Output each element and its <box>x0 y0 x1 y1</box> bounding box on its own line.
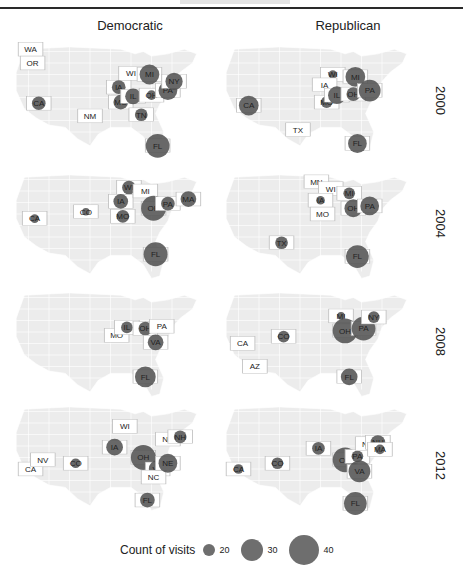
svg-text:NC: NC <box>148 473 160 482</box>
svg-text:PA: PA <box>157 322 168 331</box>
svg-text:FL: FL <box>351 499 361 508</box>
state-marker-ia: IA <box>102 439 127 456</box>
column-header-democratic: Democratic <box>40 18 220 33</box>
state-marker-ne: NE <box>156 454 181 473</box>
svg-text:IA: IA <box>315 444 323 453</box>
state-marker-wa: WA <box>18 42 43 56</box>
us-map: CATXWIIAMOILMIOHPAFL <box>218 40 423 155</box>
state-marker-mo: MO <box>111 209 136 223</box>
svg-text:MI: MI <box>345 189 354 198</box>
state-marker-ca: CA <box>226 462 251 476</box>
state-marker-nc: NC <box>141 470 166 484</box>
state-marker-co: CO <box>63 456 88 470</box>
svg-text:MI: MI <box>141 187 150 196</box>
svg-text:VA: VA <box>151 338 162 347</box>
svg-text:TN: TN <box>136 111 147 120</box>
state-marker-ca: CA <box>26 96 51 110</box>
state-marker-fl: FL <box>337 368 362 385</box>
legend-label-30: 30 <box>267 545 277 555</box>
svg-text:PA: PA <box>163 200 174 209</box>
svg-text:NY: NY <box>368 313 380 322</box>
legend-circle-medium-icon <box>241 539 263 561</box>
legend-title: Count of visits <box>120 543 195 557</box>
svg-text:AZ: AZ <box>250 362 260 371</box>
svg-text:CA: CA <box>233 465 245 474</box>
state-marker-az: AZ <box>243 360 268 374</box>
top-title-remnant <box>180 0 290 4</box>
svg-text:WA: WA <box>24 45 37 54</box>
panel-democratic-2000: WAORCANMWIIAMOILMIOHPANYTNFL <box>8 40 213 155</box>
state-marker-co: CO <box>271 330 296 344</box>
state-marker-ma: MA <box>368 443 393 457</box>
panel-republican-2008: CAAZCOMIOHPANYFL <box>218 286 423 401</box>
state-marker-fl: FL <box>345 134 370 153</box>
svg-text:CA: CA <box>237 339 249 348</box>
state-marker-wi: WI <box>113 420 138 434</box>
svg-text:CO: CO <box>80 208 92 217</box>
panel-democratic-2008: MOILOHPAVAFL <box>8 286 213 401</box>
row-strip-2012: 2012 <box>420 420 460 510</box>
size-legend: Count of visits 20 30 40 <box>120 536 345 564</box>
svg-text:OH: OH <box>137 453 149 462</box>
state-marker-co: CO <box>74 205 99 219</box>
state-marker-pa: PA <box>357 197 382 216</box>
svg-text:OH: OH <box>339 327 351 336</box>
top-rule <box>0 7 463 9</box>
state-marker-ia: IA <box>308 193 333 207</box>
svg-text:NM: NM <box>84 112 97 121</box>
svg-text:FL: FL <box>141 373 151 382</box>
svg-text:FL: FL <box>153 142 163 151</box>
state-marker-fl: FL <box>135 493 160 508</box>
svg-text:CA: CA <box>33 99 45 108</box>
state-marker-nv: NV <box>31 453 56 467</box>
legend-label-40: 40 <box>323 545 333 555</box>
svg-text:FL: FL <box>345 373 355 382</box>
svg-text:NH: NH <box>174 433 186 442</box>
state-marker-pa: PA <box>149 319 174 333</box>
panel-democratic-2004: CACOWIIAMOMIOHPAMAFL <box>8 168 213 283</box>
svg-text:IL: IL <box>130 92 137 101</box>
svg-text:CO: CO <box>70 459 82 468</box>
svg-text:FL: FL <box>353 139 363 148</box>
state-marker-tn: TN <box>129 108 154 122</box>
us-map: CANVCOWIIAOHVANCNENYNHFL <box>8 400 213 515</box>
state-marker-ny: NY <box>162 73 187 90</box>
svg-text:WI: WI <box>124 183 134 192</box>
row-strip-2000: 2000 <box>420 55 460 145</box>
svg-text:TX: TX <box>293 126 304 135</box>
panel-republican-2004: MNWIIAMOMIOHPATXFL <box>218 168 423 283</box>
state-marker-va: VA <box>143 334 168 350</box>
svg-text:IA: IA <box>117 197 125 206</box>
svg-text:PA: PA <box>365 202 376 211</box>
state-marker-tx: TX <box>286 123 311 137</box>
legend-circle-small-icon <box>203 544 215 556</box>
us-map: CAAZCOMIOHPANYFL <box>218 286 423 401</box>
svg-text:NE: NE <box>162 459 174 468</box>
state-marker-mi: MI <box>337 186 362 200</box>
state-marker-ny: NY <box>362 310 387 324</box>
state-marker-mi: MI <box>137 65 162 85</box>
legend-circle-large-icon <box>289 535 319 565</box>
row-strip-2008: 2008 <box>420 296 460 386</box>
svg-text:FL: FL <box>143 496 153 505</box>
state-marker-ca: CA <box>236 96 261 116</box>
svg-text:IA: IA <box>317 196 325 205</box>
us-map: CACOWIIAMOMIOHPAMAFL <box>8 168 213 283</box>
svg-text:CO: CO <box>278 332 290 341</box>
svg-text:CA: CA <box>29 214 41 223</box>
svg-text:IL: IL <box>124 323 131 332</box>
state-marker-ma: MA <box>176 191 201 207</box>
svg-text:PA: PA <box>352 452 363 461</box>
panel-republican-2000: CATXWIIAMOILMIOHPAFL <box>218 40 423 155</box>
svg-text:FL: FL <box>353 252 363 261</box>
svg-text:MO: MO <box>116 212 129 221</box>
state-marker-ia: IA <box>306 441 331 455</box>
svg-text:WI: WI <box>120 422 130 431</box>
state-marker-ca: CA <box>230 337 255 351</box>
svg-text:CO: CO <box>271 459 283 468</box>
svg-text:IL: IL <box>334 91 341 100</box>
us-map: WAORCANMWIIAMOILMIOHPANYTNFL <box>8 40 213 155</box>
svg-text:PA: PA <box>358 324 369 333</box>
svg-text:OR: OR <box>27 59 39 68</box>
legend-label-20: 20 <box>219 545 229 555</box>
